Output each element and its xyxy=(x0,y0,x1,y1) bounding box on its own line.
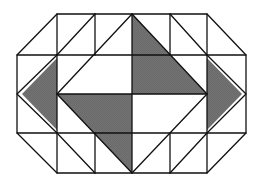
pattern-svg xyxy=(0,0,262,184)
shaded-left-triangle xyxy=(22,58,57,130)
quilt-pattern-figure: Octagonal quilt-block tiling pattern xyxy=(0,0,262,184)
shaded-right-triangle xyxy=(207,58,242,130)
